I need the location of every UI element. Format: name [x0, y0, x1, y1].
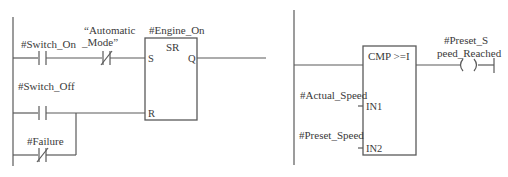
automatic-mode-label-line1: “Automatic: [84, 24, 135, 36]
preset-speed-label: #Preset_Speed: [299, 129, 364, 141]
cmp-in2-pin: IN2: [366, 143, 382, 154]
failure-label: #Failure: [27, 135, 64, 147]
actual-speed-label: #Actual_Speed: [300, 89, 367, 101]
switch-off-contact-icon[interactable]: [39, 106, 46, 120]
coil-label-line1: #Preset_S: [444, 34, 488, 46]
sr-block-title: SR: [166, 41, 179, 53]
ladder-diagram-canvas: [0, 0, 508, 177]
switch-on-contact-icon[interactable]: [39, 51, 46, 65]
engine-on-instance-label: #Engine_On: [149, 24, 205, 36]
coil-label-line2: peed_Reached: [437, 47, 501, 59]
cmp-block-title: CMP >=I: [368, 50, 410, 62]
switch-on-label: #Switch_On: [21, 38, 76, 50]
sr-reset-pin: R: [148, 108, 155, 119]
sr-output-pin: Q: [188, 53, 196, 64]
automatic-mode-label-line2: _Mode”: [82, 36, 118, 48]
preset-speed-reached-coil-icon[interactable]: [461, 59, 477, 71]
sr-set-pin: S: [148, 53, 154, 64]
cmp-in1-pin: IN1: [366, 101, 382, 112]
switch-off-label: #Switch_Off: [18, 80, 75, 92]
